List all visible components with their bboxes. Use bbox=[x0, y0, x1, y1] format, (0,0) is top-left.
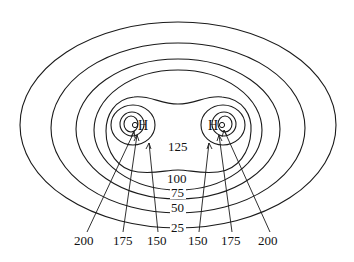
nucleus-right-icon bbox=[219, 122, 224, 127]
label-175-left: 175 bbox=[113, 233, 133, 248]
atom-label-left: H bbox=[138, 118, 148, 133]
leader-175-left bbox=[123, 135, 137, 232]
h2-contour-diagram: H H 125 100 75 50 25 200 175 150 150 175… bbox=[0, 0, 354, 262]
label-200-right: 200 bbox=[258, 233, 278, 248]
leader-200-left bbox=[87, 132, 134, 232]
label-25: 25 bbox=[171, 220, 184, 235]
leader-175-right bbox=[219, 135, 232, 232]
label-75: 75 bbox=[171, 185, 184, 200]
label-100: 100 bbox=[167, 171, 187, 186]
label-200-left: 200 bbox=[74, 233, 94, 248]
nucleus-left-icon bbox=[132, 122, 137, 127]
label-150-right: 150 bbox=[188, 233, 208, 248]
label-125: 125 bbox=[168, 139, 188, 154]
arrowhead-150-right bbox=[207, 143, 212, 149]
atom-label-right: H bbox=[208, 118, 218, 133]
label-150-left: 150 bbox=[147, 233, 167, 248]
contour-150-left bbox=[111, 105, 155, 145]
arrowhead-150-left bbox=[146, 143, 151, 149]
label-50: 50 bbox=[171, 200, 184, 215]
contour-200-left bbox=[124, 116, 138, 132]
label-175-right: 175 bbox=[221, 233, 241, 248]
leader-150-left bbox=[149, 143, 158, 232]
leader-200-right bbox=[224, 130, 270, 232]
